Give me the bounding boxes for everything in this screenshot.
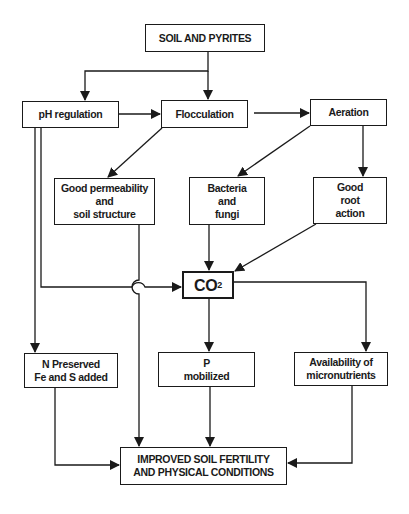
edge-n-result [55, 388, 119, 465]
edge-root-co2 [235, 224, 316, 271]
edge-aeration-bacteria [238, 126, 310, 176]
node-bacteria-fungi: Bacteria and fungi [189, 177, 265, 225]
connector-layer [0, 0, 409, 514]
co2-label: CO [194, 279, 217, 292]
edge-perm-result [132, 225, 139, 446]
edge-avail-result [288, 386, 352, 463]
node-soil-and-pyrites: SOIL AND PYRITES [145, 24, 265, 52]
node-aeration: Aeration [310, 99, 387, 126]
node-p-mobilized: P mobilized [158, 352, 255, 387]
node-co2: CO2 [182, 271, 234, 299]
edge-floc-perm [108, 128, 162, 177]
node-improved-soil-fertility: IMPROVED SOIL FERTILITY AND PHYSICAL CON… [120, 447, 287, 485]
node-flocculation: Flocculation [161, 100, 248, 128]
node-n-preserved: N Preserved Fe and S added [24, 353, 118, 388]
node-availability-micronutrients: Availability of micronutrients [294, 352, 388, 386]
node-ph-regulation: pH regulation [22, 101, 119, 128]
node-good-root-action: Good root action [313, 177, 387, 224]
edge-co2-avail [234, 282, 366, 351]
edge-soil-ph [85, 52, 208, 100]
node-good-permeability: Good permeability and soil structure [54, 178, 155, 225]
co2-subscript: 2 [217, 279, 222, 292]
